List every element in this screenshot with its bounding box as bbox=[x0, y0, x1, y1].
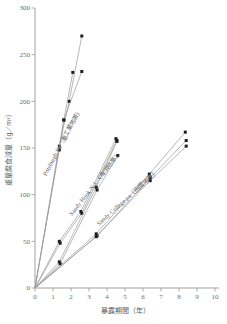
y-tick-label: 200 bbox=[20, 98, 31, 106]
y-tick-label: 50 bbox=[23, 238, 31, 246]
x-tick-label: 7 bbox=[159, 293, 163, 301]
y-tick-label: 300 bbox=[20, 4, 31, 12]
axes-group: 050100150200250300012345678910 bbox=[20, 4, 220, 301]
data-point bbox=[115, 140, 118, 143]
x-axis-title: 暴露期間（年） bbox=[101, 306, 150, 315]
data-point bbox=[62, 119, 65, 122]
data-point bbox=[185, 139, 188, 142]
x-tick-label: 2 bbox=[69, 293, 73, 301]
x-tick-label: 10 bbox=[212, 293, 220, 301]
y-tick-label: 0 bbox=[27, 284, 31, 292]
data-point bbox=[95, 235, 98, 238]
data-point bbox=[96, 189, 99, 192]
y-tick-label: 250 bbox=[20, 51, 31, 59]
x-tick-label: 3 bbox=[87, 293, 91, 301]
x-tick-label: 4 bbox=[105, 293, 109, 301]
x-tick-label: 0 bbox=[33, 293, 37, 301]
series-line bbox=[35, 36, 82, 288]
data-point bbox=[184, 131, 187, 134]
x-tick-label: 1 bbox=[51, 293, 55, 301]
data-point bbox=[71, 71, 74, 74]
data-point bbox=[185, 145, 188, 148]
series-line bbox=[35, 71, 82, 288]
chart-canvas: 050100150200250300012345678910 Pittsburg… bbox=[0, 0, 227, 324]
y-tick-label: 100 bbox=[20, 191, 31, 199]
y-tick-label: 150 bbox=[20, 144, 31, 152]
data-point bbox=[80, 70, 83, 73]
y-axis-title: 重量腐食減量（g／m²） bbox=[4, 110, 13, 185]
annotations-group: Pittsburgh Pa（重工業地帯）Sandy Hook N.J.（海浜地帯… bbox=[41, 107, 160, 227]
x-tick-label: 5 bbox=[123, 293, 127, 301]
corrosion-weight-loss-chart: 050100150200250300012345678910 Pittsburg… bbox=[0, 0, 227, 324]
series-annotation-1: Pittsburgh Pa（重工業地帯） bbox=[41, 107, 83, 177]
x-tick-label: 6 bbox=[141, 293, 145, 301]
x-tick-label: 9 bbox=[195, 293, 199, 301]
x-tick-label: 8 bbox=[177, 293, 181, 301]
data-point bbox=[59, 242, 62, 245]
data-point bbox=[80, 35, 83, 38]
